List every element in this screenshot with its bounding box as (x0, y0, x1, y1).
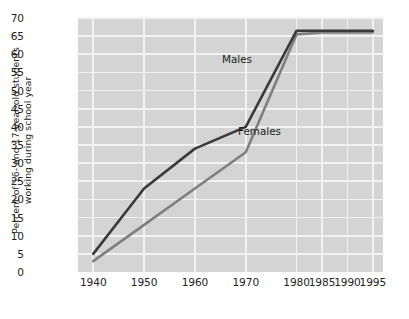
y-tick-label: 35 (0, 139, 24, 151)
series-label-females: Females (238, 125, 281, 137)
y-tick-label: 30 (0, 157, 24, 169)
x-tick-label: 1940 (70, 276, 116, 288)
y-tick-label: 0 (0, 266, 24, 278)
y-tick-label: 40 (0, 121, 24, 133)
chart-figure: Percent of 16- and 17-year-old students … (0, 0, 409, 319)
y-tick-label: 20 (0, 193, 24, 205)
y-tick-label: 5 (0, 248, 24, 260)
x-tick-label: 1970 (223, 276, 269, 288)
series-label-males: Males (222, 53, 252, 65)
x-tick-label: 1995 (350, 276, 396, 288)
line-females (93, 33, 373, 262)
y-tick-label: 10 (0, 230, 24, 242)
y-tick-label: 15 (0, 212, 24, 224)
y-tick-label: 45 (0, 103, 24, 115)
y-tick-label: 60 (0, 48, 24, 60)
y-tick-label: 70 (0, 12, 24, 24)
y-tick-label: 50 (0, 85, 24, 97)
y-tick-label: 65 (0, 30, 24, 42)
y-tick-label: 55 (0, 66, 24, 78)
x-tick-label: 1950 (121, 276, 167, 288)
y-tick-label: 25 (0, 175, 24, 187)
x-tick-label: 1960 (172, 276, 218, 288)
